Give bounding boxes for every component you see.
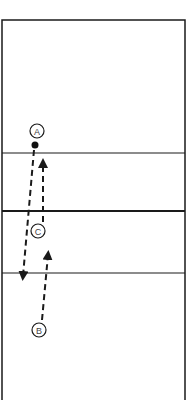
player-b: B <box>32 323 46 337</box>
player-a-label: A <box>34 127 40 137</box>
ball-icon <box>32 142 39 149</box>
court-diagram: A C B <box>0 0 191 400</box>
player-b-label: B <box>36 326 42 336</box>
player-c-label: C <box>35 227 42 237</box>
path-b-up-arrow <box>42 255 48 320</box>
player-a: A <box>30 124 44 138</box>
player-c: C <box>31 224 45 238</box>
path-a-down-arrow <box>23 150 34 276</box>
